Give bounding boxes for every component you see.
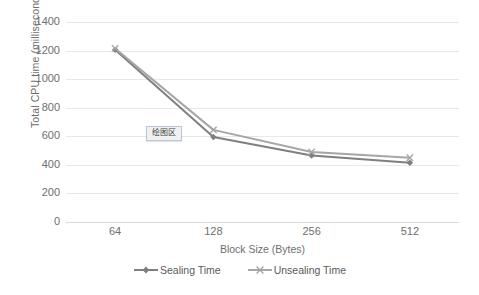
chart-legend: Sealing TimeUnsealing Time — [0, 264, 479, 276]
legend-marker-cross-icon — [247, 264, 273, 276]
y-axis-tick-label: 1200 — [16, 45, 60, 56]
x-axis-line — [66, 222, 459, 223]
series-line-sealing-time — [115, 50, 410, 163]
y-axis-tick-label: 0 — [16, 216, 60, 227]
y-axis-tick-label: 1000 — [16, 73, 60, 84]
legend-marker-diamond-icon — [133, 264, 159, 276]
legend-label: Sealing Time — [160, 264, 221, 276]
y-axis-tick-label: 600 — [16, 130, 60, 141]
x-axis-tick-label: 128 — [183, 225, 243, 237]
legend-entry[interactable]: Sealing Time — [133, 264, 221, 276]
series-line-unsealing-time — [115, 48, 410, 157]
x-axis-tick-label: 256 — [282, 225, 342, 237]
y-axis-tick-label: 400 — [16, 159, 60, 170]
x-axis-tick-label: 64 — [85, 225, 145, 237]
plot-area[interactable] — [66, 22, 459, 222]
y-axis-tick-label: 1400 — [16, 16, 60, 27]
x-axis-tick-labels: 64128256512 — [66, 225, 459, 241]
legend-entry[interactable]: Unsealing Time — [247, 264, 346, 276]
series-lines — [66, 22, 459, 222]
plot-area-tooltip: 绘图区 — [146, 126, 182, 141]
y-axis-tick-label: 800 — [16, 102, 60, 113]
y-axis-tick-label: 200 — [16, 187, 60, 198]
chart-container: Total CPU time (milliseconds) 1400120010… — [0, 0, 479, 295]
legend-label: Unsealing Time — [274, 264, 346, 276]
x-axis-title: Block Size (Bytes) — [66, 243, 459, 255]
data-point-marker-diamond — [143, 267, 150, 274]
x-axis-tick-label: 512 — [380, 225, 440, 237]
y-axis-tick-labels: 1400120010008006004002000 — [12, 0, 60, 295]
